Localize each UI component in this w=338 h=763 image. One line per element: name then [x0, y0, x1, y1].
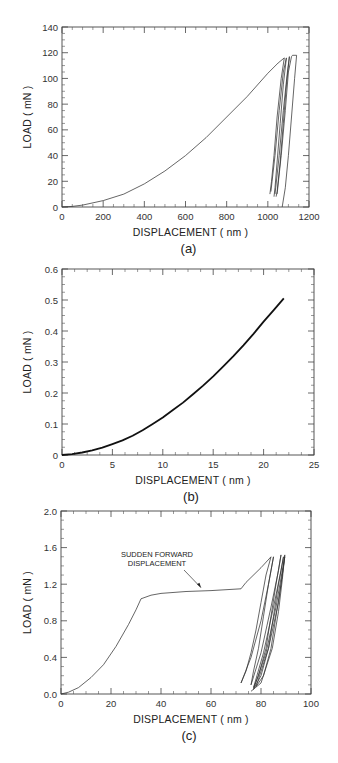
annotation-text: DISPLACEMENT [128, 559, 187, 568]
data-series [62, 298, 284, 455]
x-tick-label: 800 [219, 211, 235, 222]
x-axis-title: DISPLACEMENT ( nm ) [135, 474, 251, 486]
chart-a: 020040060080010001200020406080100120140D… [21, 22, 320, 257]
y-tick-label: 0.3 [45, 357, 58, 368]
x-tick-label: 400 [136, 211, 152, 222]
data-series [254, 557, 284, 688]
arrowhead-icon [197, 583, 201, 588]
y-tick-label: 0 [53, 202, 58, 213]
x-tick-label: 0 [59, 459, 64, 470]
data-series [62, 58, 284, 207]
y-tick-label: 0.4 [45, 326, 58, 337]
x-tick-label: 5 [110, 459, 115, 470]
y-tick-label: 140 [42, 22, 58, 33]
x-tick-label: 0 [58, 698, 63, 709]
data-series [61, 557, 271, 694]
x-tick-label: 20 [258, 459, 269, 470]
x-tick-label: 0 [59, 211, 64, 222]
y-tick-label: 40 [47, 150, 58, 161]
y-tick-label: 60 [47, 124, 58, 135]
x-tick-label: 1000 [257, 211, 278, 222]
y-tick-label: 100 [42, 73, 58, 84]
chart-caption: (c) [181, 728, 196, 743]
y-axis-title: LOAD ( mN ) [21, 571, 33, 634]
x-tick-label: 600 [178, 211, 194, 222]
x-tick-label: 20 [106, 698, 117, 709]
figure-canvas: 020040060080010001200020406080100120140D… [0, 0, 338, 763]
y-axis-title: LOAD ( mN ) [21, 86, 33, 149]
y-tick-label: 0.8 [44, 615, 57, 626]
plot-frame [62, 269, 314, 455]
y-tick-label: 20 [47, 176, 58, 187]
x-tick-label: 100 [303, 698, 319, 709]
chart-caption: (b) [183, 489, 199, 504]
y-tick-label: 2.0 [44, 506, 57, 517]
chart-c: 0204060801000.00.40.81.21.62.0DISPLACEME… [21, 506, 319, 744]
annotation-text: SUDDEN FORWARD [121, 550, 194, 559]
y-tick-label: 120 [42, 47, 58, 58]
y-tick-label: 0.2 [45, 388, 58, 399]
y-tick-label: 80 [47, 99, 58, 110]
x-tick-label: 200 [95, 211, 111, 222]
x-tick-label: 15 [208, 459, 219, 470]
y-tick-label: 0.4 [44, 652, 57, 663]
y-tick-label: 0.5 [45, 295, 58, 306]
y-tick-label: 0 [53, 450, 58, 461]
x-tick-label: 10 [158, 459, 169, 470]
chart-caption: (a) [181, 241, 197, 256]
x-tick-label: 40 [156, 698, 167, 709]
y-tick-label: 1.6 [44, 542, 57, 553]
y-tick-label: 1.2 [44, 579, 57, 590]
y-tick-label: 0.0 [44, 689, 57, 700]
x-axis-title: DISPLACEMENT ( nm ) [133, 713, 249, 725]
x-tick-label: 60 [206, 698, 217, 709]
y-tick-label: 0.6 [45, 264, 58, 275]
data-series [274, 58, 286, 197]
data-series [254, 557, 284, 690]
chart-b: 051015202500.10.20.30.40.50.6DISPLACEMEN… [21, 264, 319, 505]
y-tick-label: 0.1 [45, 419, 58, 430]
x-tick-label: 80 [256, 698, 267, 709]
y-axis-title: LOAD ( mN ) [21, 331, 33, 394]
x-tick-label: 25 [309, 459, 320, 470]
x-tick-label: 1200 [298, 211, 319, 222]
x-axis-title: DISPLACEMENT ( nm ) [133, 226, 249, 238]
